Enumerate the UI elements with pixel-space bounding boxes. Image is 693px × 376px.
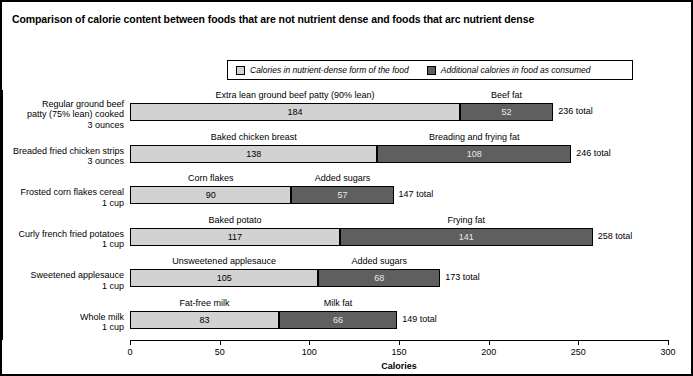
x-tick-mark bbox=[130, 340, 131, 345]
bar-segment-nutrient-dense: 90 bbox=[130, 186, 291, 204]
category-label: Regular ground beefpatty (75% lean) cook… bbox=[2, 99, 124, 131]
segment-label-additional: Added sugars bbox=[351, 256, 407, 266]
row-total-label: 149 total bbox=[402, 314, 437, 324]
category-label-line: 1 cup bbox=[2, 322, 124, 333]
category-label-line: 3 ounces bbox=[2, 156, 124, 167]
x-tick-mark bbox=[220, 340, 221, 345]
category-label-line: Whole milk bbox=[2, 312, 124, 323]
row-total-label: 246 total bbox=[576, 148, 611, 158]
bar-segment-additional: 68 bbox=[318, 269, 440, 287]
chart-title: Comparison of calorie content between fo… bbox=[12, 13, 672, 25]
x-tick-label: 250 bbox=[571, 347, 586, 357]
x-tick-mark bbox=[399, 340, 400, 345]
chart-figure: Comparison of calorie content between fo… bbox=[0, 0, 693, 376]
legend-label-additional-calories: Additional calories in food as consumed bbox=[441, 65, 591, 75]
x-tick-label: 0 bbox=[127, 347, 132, 357]
category-label: Breaded fried chicken strips3 ounces bbox=[2, 146, 124, 167]
x-tick-mark bbox=[668, 340, 669, 345]
x-tick-label: 50 bbox=[215, 347, 225, 357]
category-label-line: Breaded fried chicken strips bbox=[2, 146, 124, 157]
segment-label-nutrient-dense: Extra lean ground beef patty (90% lean) bbox=[215, 90, 374, 100]
chart-row: Sweetened applesauce1 cup10568Unsweetene… bbox=[2, 256, 691, 297]
row-total-label: 258 total bbox=[598, 231, 633, 241]
bar-segment-additional: 52 bbox=[460, 103, 553, 121]
segment-label-additional: Frying fat bbox=[447, 215, 485, 225]
segment-label-additional: Breading and frying fat bbox=[429, 132, 520, 142]
segment-label-additional: Milk fat bbox=[324, 298, 353, 308]
x-tick-mark bbox=[578, 340, 579, 345]
bar-segment-nutrient-dense: 83 bbox=[130, 311, 279, 329]
chart-legend: Calories in nutrient-dense form of the f… bbox=[227, 60, 633, 80]
x-tick-label: 150 bbox=[391, 347, 406, 357]
bar-segment-additional: 66 bbox=[279, 311, 397, 329]
category-label: Curly french fried potatoes1 cup bbox=[2, 229, 124, 250]
category-label-line: 1 cup bbox=[2, 198, 124, 209]
segment-label-nutrient-dense: Fat-free milk bbox=[179, 298, 229, 308]
chart-row: Breaded fried chicken strips3 ounces1381… bbox=[2, 132, 691, 173]
chart-row: Frosted corn flakes cereal1 cup9057Corn … bbox=[2, 173, 691, 214]
segment-label-additional: Added sugars bbox=[315, 173, 371, 183]
chart-row: Regular ground beefpatty (75% lean) cook… bbox=[2, 90, 691, 131]
category-label: Whole milk1 cup bbox=[2, 312, 124, 333]
bar-segment-additional: 57 bbox=[291, 186, 393, 204]
category-label-line: Frosted corn flakes cereal bbox=[2, 187, 124, 198]
category-label-line: Sweetened applesauce bbox=[2, 270, 124, 281]
chart-row: Whole milk1 cup8366Fat-free milkMilk fat… bbox=[2, 298, 691, 339]
x-tick-label: 100 bbox=[302, 347, 317, 357]
chart-row: Curly french fried potatoes1 cup117141Ba… bbox=[2, 215, 691, 256]
row-total-label: 173 total bbox=[445, 272, 480, 282]
category-label-line: 3 ounces bbox=[2, 120, 124, 131]
legend-item-additional-calories: Additional calories in food as consumed bbox=[427, 65, 591, 75]
x-tick-mark bbox=[309, 340, 310, 345]
category-label-line: Curly french fried potatoes bbox=[2, 229, 124, 240]
legend-swatch-light-gray bbox=[236, 66, 245, 75]
legend-label-nutrient-dense: Calories in nutrient-dense form of the f… bbox=[250, 65, 409, 75]
segment-label-nutrient-dense: Baked potato bbox=[208, 215, 261, 225]
legend-item-nutrient-dense: Calories in nutrient-dense form of the f… bbox=[236, 65, 409, 75]
segment-label-nutrient-dense: Corn flakes bbox=[188, 173, 234, 183]
segment-label-nutrient-dense: Unsweetened applesauce bbox=[172, 256, 276, 266]
category-label-line: Regular ground beef bbox=[2, 99, 124, 110]
segment-label-additional: Beef fat bbox=[491, 90, 522, 100]
segment-label-nutrient-dense: Baked chicken breast bbox=[211, 132, 297, 142]
bar-segment-nutrient-dense: 184 bbox=[130, 103, 460, 121]
row-total-label: 147 total bbox=[399, 189, 434, 199]
bar-segment-nutrient-dense: 105 bbox=[130, 269, 318, 287]
x-tick-label: 200 bbox=[481, 347, 496, 357]
row-total-label: 236 total bbox=[558, 106, 593, 116]
bar-segment-additional: 108 bbox=[377, 145, 571, 163]
category-label-line: 1 cup bbox=[2, 239, 124, 250]
bar-segment-nutrient-dense: 117 bbox=[130, 228, 340, 246]
legend-swatch-dark-gray bbox=[427, 66, 436, 75]
category-label: Frosted corn flakes cereal1 cup bbox=[2, 187, 124, 208]
category-label-line: 1 cup bbox=[2, 281, 124, 292]
category-label: Sweetened applesauce1 cup bbox=[2, 270, 124, 291]
x-axis-label: Calories bbox=[130, 361, 668, 371]
category-label-line: patty (75% lean) cooked bbox=[2, 109, 124, 120]
bar-segment-nutrient-dense: 138 bbox=[130, 145, 377, 163]
x-tick-mark bbox=[489, 340, 490, 345]
x-tick-label: 300 bbox=[660, 347, 675, 357]
bar-segment-additional: 141 bbox=[340, 228, 593, 246]
